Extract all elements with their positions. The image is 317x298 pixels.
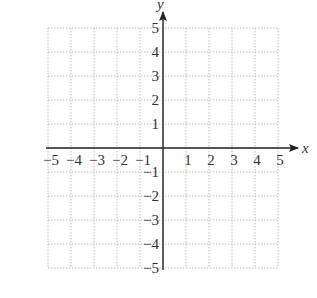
x-tick-label: 5 xyxy=(276,152,284,168)
x-tick-label: 4 xyxy=(253,152,261,168)
coordinate-plane: xy−5−4−3−2−112345−5−4−3−2−112345 xyxy=(0,0,317,298)
x-tick-label: 1 xyxy=(184,152,192,168)
y-tick-label: 5 xyxy=(152,20,160,36)
x-tick-label: −4 xyxy=(66,152,82,168)
y-tick-label: −5 xyxy=(143,260,159,276)
y-tick-label: 2 xyxy=(152,92,160,108)
y-tick-label: −1 xyxy=(143,164,159,180)
y-tick-label: 3 xyxy=(152,68,160,84)
y-tick-label: −2 xyxy=(143,188,159,204)
y-axis-label: y xyxy=(155,0,164,12)
x-tick-label: −5 xyxy=(43,152,59,168)
x-tick-label: 3 xyxy=(230,152,238,168)
tick-labels: xy−5−4−3−2−112345−5−4−3−2−112345 xyxy=(43,0,309,276)
axes xyxy=(46,12,298,270)
y-tick-label: −3 xyxy=(143,212,159,228)
y-tick-label: 1 xyxy=(152,116,160,132)
y-tick-label: 4 xyxy=(152,44,160,60)
x-tick-label: 2 xyxy=(207,152,215,168)
x-tick-label: −3 xyxy=(89,152,105,168)
y-tick-label: −4 xyxy=(143,236,159,252)
x-tick-label: −2 xyxy=(112,152,128,168)
x-axis-label: x xyxy=(301,140,309,156)
